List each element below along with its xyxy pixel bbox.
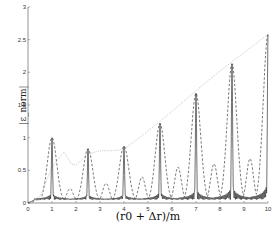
x-tick-label: 10 xyxy=(265,206,272,212)
series-dashed xyxy=(28,34,268,203)
y-tick-label: 2 xyxy=(23,69,27,75)
x-tick-label: 1 xyxy=(50,206,54,212)
series-dotted xyxy=(28,34,268,203)
x-tick-label: 7 xyxy=(194,206,198,212)
plot-area xyxy=(28,34,268,203)
x-tick-label: 3 xyxy=(98,206,102,212)
series-solid xyxy=(28,34,268,203)
y-tick-label: 2.5 xyxy=(18,37,27,43)
x-tick-label: 0 xyxy=(26,206,30,212)
y-axis-title: |ε_norm| xyxy=(18,85,28,124)
chart: 01234567891000.511.522.53 (r0 + Δr)/m xyxy=(0,0,276,225)
x-tick-label: 2 xyxy=(74,206,78,212)
x-tick-label: 8 xyxy=(218,206,222,212)
y-tick-label: 3 xyxy=(23,4,27,10)
x-axis-title: (r0 + Δr)/m xyxy=(116,210,181,223)
x-tick-label: 9 xyxy=(242,206,246,212)
y-tick-label: 1 xyxy=(23,135,27,141)
y-tick-label: 0.5 xyxy=(18,167,27,173)
axes: 01234567891000.511.522.53 xyxy=(18,4,272,212)
